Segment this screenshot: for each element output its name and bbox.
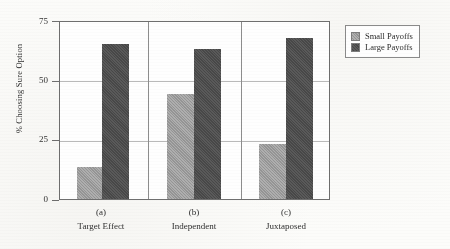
legend-label-small-payoffs: Small Payoffs — [365, 31, 413, 41]
y-tick-label-0: 0 — [44, 195, 49, 204]
x-group-letter-b: (b) — [148, 207, 240, 218]
legend-swatch-small-payoffs-icon — [351, 32, 360, 41]
bar-independent-small-payoffs — [167, 94, 195, 199]
legend-swatch-large-payoffs-icon — [351, 43, 360, 52]
bar-chart-figure: 75 50 25 0 % Choosing Sure Option (a) Ta… — [0, 0, 450, 249]
x-group-independent: (b) Independent — [148, 200, 240, 232]
y-tick-label-75: 75 — [39, 17, 48, 26]
y-tick-label-50: 50 — [39, 76, 48, 85]
y-tick-mark-25 — [52, 140, 59, 141]
legend-item-large-payoffs: Large Payoffs — [351, 42, 413, 52]
y-tick-label-25: 25 — [39, 135, 48, 144]
x-group-letter-c: (c) — [240, 207, 332, 218]
legend-label-large-payoffs: Large Payoffs — [365, 42, 413, 52]
y-tick-mark-75 — [52, 21, 59, 22]
y-axis: 75 50 25 0 % Choosing Sure Option — [0, 0, 59, 210]
bar-juxtaposed-small-payoffs — [259, 144, 287, 199]
group-divider-2 — [241, 22, 242, 199]
bar-juxtaposed-large-payoffs — [286, 38, 313, 199]
x-group-juxtaposed: (c) Juxtaposed — [240, 200, 332, 232]
plot-area — [59, 21, 330, 200]
y-axis-title: % Choosing Sure Option — [15, 9, 24, 169]
legend: Small Payoffs Large Payoffs — [345, 25, 420, 58]
legend-item-small-payoffs: Small Payoffs — [351, 31, 413, 41]
x-group-target-effect: (a) Target Effect — [55, 200, 147, 232]
bar-independent-large-payoffs — [194, 49, 221, 199]
x-group-name-independent: Independent — [148, 221, 240, 232]
bar-target-effect-large-payoffs — [102, 44, 129, 199]
x-group-letter-a: (a) — [55, 207, 147, 218]
x-group-name-juxtaposed: Juxtaposed — [240, 221, 332, 232]
y-tick-mark-50 — [52, 81, 59, 82]
group-divider-1 — [148, 22, 149, 199]
x-group-name-target-effect: Target Effect — [55, 221, 147, 232]
bar-target-effect-small-payoffs — [77, 167, 103, 199]
